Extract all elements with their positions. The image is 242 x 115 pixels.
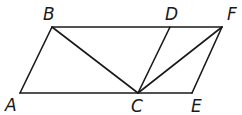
label-F: F [227,4,237,24]
label-C: C [131,96,143,115]
segment-EF [192,27,222,93]
label-D: D [165,4,178,24]
geometry-diagram: A B C D E F [0,0,242,115]
label-A: A [4,95,17,115]
segment-CD [138,27,170,93]
segment-BC [52,27,138,93]
label-B: B [43,4,55,24]
segment-CF [138,27,222,93]
segment-AB [20,27,52,93]
label-E: E [191,96,202,115]
